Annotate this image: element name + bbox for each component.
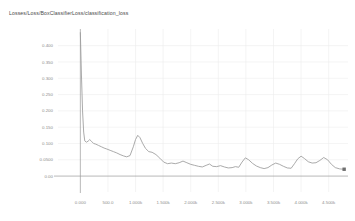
y-tick-label: 0.250 (42, 92, 54, 97)
x-tick-label: 1.000k (129, 200, 143, 205)
chart-card: Losses/Loss/BoxClassifierLoss/classifica… (0, 0, 355, 221)
y-tick-label: 0.0500 (40, 157, 54, 162)
y-tick-label: 0.350 (42, 60, 54, 65)
x-tick-label: 3.500k (267, 200, 281, 205)
x-tick-label: 2.500k (212, 200, 226, 205)
series-lines (80, 33, 345, 171)
y-axis-tick-labels: 0.4000.3500.3000.2500.2000.1500.1000.050… (40, 43, 54, 178)
x-tick-label: 3.000k (239, 200, 253, 205)
x-tick-label: 4.000k (294, 200, 308, 205)
y-tick-label: 0.150 (42, 125, 54, 130)
plot-area: 0.4000.3500.3000.2500.2000.1500.1000.050… (0, 0, 355, 221)
x-tick-label: 2.000k (184, 200, 198, 205)
x-tick-label: 4.500k (322, 200, 336, 205)
y-tick-label: 0.00 (44, 174, 53, 179)
series-end-marker (342, 168, 345, 171)
x-tick-label: 500.0 (102, 200, 114, 205)
line-chart-svg: 0.4000.3500.3000.2500.2000.1500.1000.050… (0, 0, 355, 221)
grid-lines (58, 29, 348, 192)
y-tick-label: 0.400 (42, 43, 54, 48)
y-tick-label: 0.100 (42, 141, 54, 146)
x-tick-label: 1.500k (157, 200, 171, 205)
x-axis-tick-labels: 0.000500.01.000k1.500k2.000k2.500k3.000k… (75, 200, 336, 205)
y-tick-label: 0.300 (42, 76, 54, 81)
x-tick-label: 0.000 (75, 200, 87, 205)
series-line (80, 33, 344, 170)
y-tick-label: 0.200 (42, 108, 54, 113)
